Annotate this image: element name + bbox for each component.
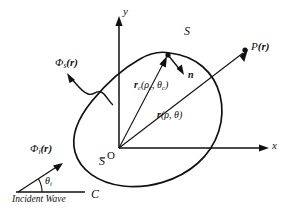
observation-point-argument: (r) bbox=[258, 40, 270, 52]
field-vector-arguments: (ρ, θ) bbox=[161, 109, 182, 120]
normal-vector bbox=[168, 55, 184, 75]
scatterer-boundary-curve bbox=[74, 52, 222, 186]
surface-vector-arg-close: ) bbox=[165, 79, 168, 90]
field-point-vector bbox=[119, 49, 248, 148]
incident-angle-subscript: i bbox=[50, 180, 52, 187]
y-axis-label: y bbox=[123, 6, 128, 17]
incident-field-argument: (r) bbox=[40, 142, 52, 154]
incident-angle-label: θi bbox=[45, 176, 52, 188]
x-axis-label: x bbox=[272, 140, 277, 151]
x-axis bbox=[119, 144, 269, 151]
incident-angle-arc bbox=[39, 179, 43, 192]
y-axis bbox=[115, 16, 122, 148]
incident-wave-caption: Incident Wave bbox=[12, 195, 66, 205]
observation-point-symbol: P bbox=[251, 40, 258, 52]
diagram-canvas bbox=[0, 0, 288, 209]
contour-label: C bbox=[91, 188, 99, 200]
exterior-region-label: S bbox=[184, 25, 190, 37]
origin-label: O bbox=[107, 150, 115, 161]
scattering-geometry-figure: y x O S ~ S C Φs(r) Φi(r) θi Incident Wa… bbox=[0, 0, 288, 209]
surface-point-vector bbox=[119, 56, 167, 148]
observation-point-marker bbox=[242, 47, 247, 52]
surface-vector-arg-open: (ρ bbox=[141, 79, 149, 90]
scattered-field-leader bbox=[67, 73, 113, 105]
interior-region-label: ~ S bbox=[99, 155, 105, 167]
tilde-accent: ~ bbox=[99, 152, 105, 163]
incident-field-label: Φi(r) bbox=[30, 143, 52, 156]
scattered-field-argument: (r) bbox=[66, 56, 78, 68]
scattered-field-label: Φs(r) bbox=[55, 57, 78, 70]
normal-vector-label: n bbox=[188, 70, 194, 80]
boundary-point-marker bbox=[165, 52, 170, 57]
surface-point-vector-label: rc(ρc, θc) bbox=[134, 80, 168, 92]
field-point-vector-label: r(ρ, θ) bbox=[157, 110, 182, 120]
surface-vector-arg-mid: , θ bbox=[152, 79, 162, 90]
observation-point-label: P(r) bbox=[251, 41, 269, 52]
incident-wave-arrow bbox=[18, 163, 63, 192]
